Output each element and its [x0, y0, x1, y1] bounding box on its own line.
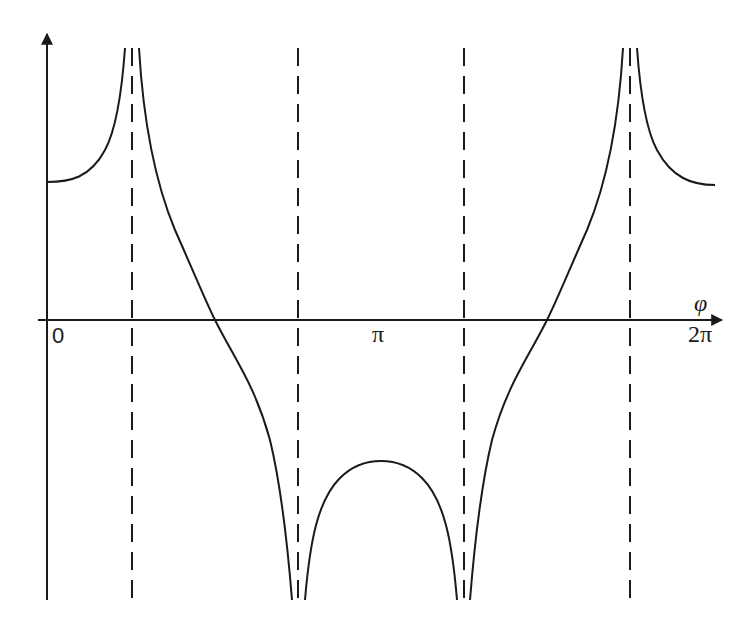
pi-tick-label: π	[372, 321, 384, 348]
x-axis-variable-label: φ	[694, 290, 707, 317]
curve-segment-2	[139, 48, 292, 600]
two-pi-tick-label: 2π	[688, 321, 712, 348]
curve-segment-3	[305, 461, 457, 600]
chart-plot	[0, 0, 753, 633]
curve-segment-1	[47, 48, 125, 182]
curve-segment-4	[470, 48, 623, 600]
origin-label: 0	[52, 323, 64, 349]
curve-segment-5	[637, 48, 715, 185]
